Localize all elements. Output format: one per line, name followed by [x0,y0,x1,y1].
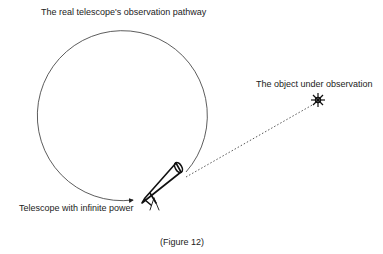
pathway-label: The real telescope's observation pathway [41,8,206,17]
diagram-canvas [0,0,383,254]
figure-caption: (Figure 12) [160,238,204,247]
star-icon [311,93,325,107]
telescope-icon [142,161,184,210]
observation-pathway-arc [37,31,207,201]
object-label: The object under observation [256,80,373,89]
telescope-label: Telescope with infinite power [19,204,134,213]
line-of-sight [186,104,314,177]
